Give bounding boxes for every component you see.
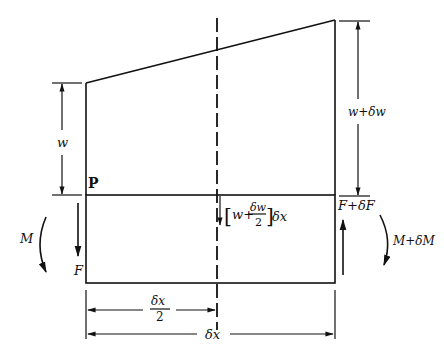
w-dimension: w <box>52 83 82 195</box>
moment-right-label: M+δM <box>392 234 436 248</box>
moment-left-label: M <box>19 231 34 246</box>
svg-text:[: [ <box>224 204 232 228</box>
moment-right-arrow <box>380 215 388 265</box>
load-resultant-label: [ w+ δw 2 ] δx <box>224 201 288 229</box>
svg-text:δx: δx <box>151 294 165 308</box>
w-plus-dw-dimension: w+δw <box>339 21 387 196</box>
point-p-label: P <box>88 175 99 191</box>
svg-text:2: 2 <box>255 216 262 229</box>
w-label: w <box>57 135 68 150</box>
svg-text:δx: δx <box>205 327 221 342</box>
moment-left-arrow <box>40 217 46 272</box>
load-distribution-outline <box>86 20 335 195</box>
beam-element-diagram: w w+δw P F M [ w+ δw 2 ] δx F+δF M+δM δx <box>0 0 444 359</box>
svg-text:δx: δx <box>272 209 288 224</box>
dx-dimension: δx <box>88 327 333 342</box>
beam-element <box>86 195 335 283</box>
half-dx-dimension: δx 2 <box>88 294 215 324</box>
w-plus-dw-label: w+δw <box>348 105 387 119</box>
svg-text:δw: δw <box>250 201 267 214</box>
shear-right-label: F+δF <box>337 198 376 213</box>
shear-left-label: F <box>73 263 84 278</box>
svg-text:2: 2 <box>156 310 164 324</box>
